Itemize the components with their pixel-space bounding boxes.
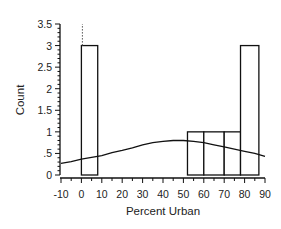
y-tick-label: 3 (46, 40, 52, 52)
histogram-bar-1 (187, 132, 203, 175)
histogram-bar-3 (224, 132, 240, 175)
y-tick-labels: 0.511.522.533.5 (37, 18, 52, 181)
histogram-chart: -100102030405060708090 0.511.522.533.5 P… (0, 0, 281, 229)
x-tick-label: 80 (239, 188, 251, 200)
y-tick-label: .5 (43, 147, 52, 159)
histogram-bar-0 (81, 46, 97, 175)
y-tick-label: 2 (46, 83, 52, 95)
x-tick-label: -10 (53, 188, 68, 200)
y-tick-label: 1.5 (37, 104, 52, 116)
x-tick-labels: -100102030405060708090 (53, 188, 271, 200)
x-tick-label: 10 (96, 188, 108, 200)
y-tick-label: 2.5 (37, 61, 52, 73)
histogram-bar-2 (204, 132, 224, 175)
x-tick-label: 90 (259, 188, 271, 200)
x-tick-label: 40 (157, 188, 169, 200)
x-tick-label: 70 (218, 188, 230, 200)
x-tick-label: 60 (198, 188, 210, 200)
x-tick-label: 30 (137, 188, 149, 200)
y-tick-label: 1 (46, 126, 52, 138)
y-tick-label: 3.5 (37, 18, 52, 30)
x-axis-title: Percent Urban (126, 205, 200, 217)
bars-layer (81, 46, 258, 175)
x-tick-label: 50 (178, 188, 190, 200)
y-axis-title: Count (14, 84, 26, 115)
x-tick-label: 0 (78, 188, 84, 200)
y-tick-label: 0 (46, 169, 52, 181)
x-tick-label: 20 (116, 188, 128, 200)
histogram-bar-4 (241, 46, 259, 175)
